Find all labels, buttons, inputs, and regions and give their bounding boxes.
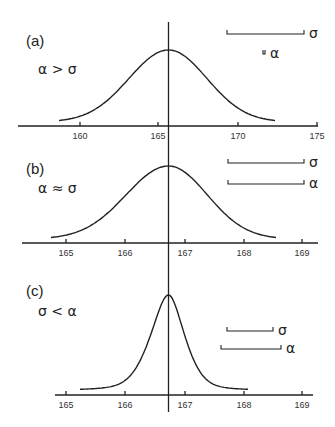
- sigma-scale-bar: [228, 159, 304, 163]
- panel-label: (a): [26, 32, 44, 49]
- alpha-symbol-label: α: [286, 340, 295, 356]
- x-tick-label: 166: [117, 400, 132, 410]
- x-tick-label: 168: [236, 400, 251, 410]
- distribution-curve: [80, 295, 248, 389]
- x-tick-label: 169: [294, 400, 309, 410]
- condition-label: α > σ: [38, 61, 77, 77]
- distribution-curve: [59, 50, 275, 121]
- panel-a: 160165170175(a)α > σσα: [18, 25, 325, 141]
- x-tick-label: 167: [177, 248, 192, 258]
- condition-label: σ < α: [38, 303, 77, 319]
- sigma-symbol-label: σ: [309, 154, 318, 170]
- x-tick-label: 167: [177, 400, 192, 410]
- sigma-scale-bar: [227, 30, 304, 34]
- alpha-scale-bar: [221, 345, 281, 349]
- x-tick-label: 166: [117, 248, 132, 258]
- distribution-curve: [51, 166, 276, 238]
- alpha-symbol-label: α: [309, 175, 318, 191]
- sigma-scale-bar: [227, 327, 273, 331]
- figure-canvas: 160165170175(a)α > σσα165166167168169(b)…: [0, 0, 335, 427]
- condition-label: α ≈ σ: [38, 180, 77, 196]
- alpha-scale-bar: [228, 180, 304, 184]
- alpha-scale-bar: [263, 50, 265, 54]
- alpha-symbol-label: α: [270, 45, 279, 61]
- sigma-symbol-label: σ: [309, 25, 318, 41]
- x-tick-label: 175: [309, 131, 324, 141]
- sigma-symbol-label: σ: [278, 322, 287, 338]
- x-tick-label: 165: [58, 248, 73, 258]
- x-tick-label: 165: [58, 400, 73, 410]
- x-tick-label: 160: [72, 131, 87, 141]
- panel-label: (c): [26, 282, 44, 299]
- x-tick-label: 170: [230, 131, 245, 141]
- x-tick-label: 165: [150, 131, 165, 141]
- x-tick-label: 168: [236, 248, 251, 258]
- panel-b: 165166167168169(b)α ≈ σσα: [22, 154, 318, 258]
- panel-label: (b): [26, 160, 44, 177]
- x-tick-label: 169: [294, 248, 309, 258]
- panel-c: 165166167168169(c)σ < ασα: [26, 282, 313, 410]
